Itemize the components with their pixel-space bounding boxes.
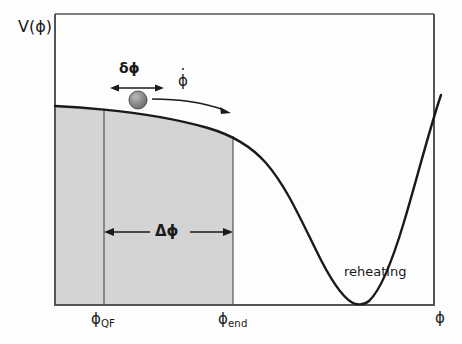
inflaton-ball	[129, 91, 147, 109]
slow-roll-shaded-region	[55, 106, 233, 305]
y-axis-label: V(ϕ)	[18, 17, 52, 36]
phi-qf-subscript: QF	[101, 318, 115, 329]
potential-diagram	[0, 0, 462, 344]
x-axis-label: ϕ	[435, 309, 445, 327]
phi-qf-base: ϕ	[91, 310, 101, 328]
phi-dot-label: ϕ	[178, 72, 188, 90]
delta-phi-arrow	[110, 85, 164, 92]
phi-end-subscript: end	[228, 318, 248, 329]
reheating-label: reheating	[344, 264, 406, 279]
phi-end-tick-label: ϕend	[218, 310, 248, 329]
delta-phi-label: δϕ	[119, 60, 140, 76]
figure-canvas: V(ϕ) ϕ δϕ ϕ Δϕ reheating ϕQF ϕend	[0, 0, 462, 344]
big-delta-phi-label: Δϕ	[155, 222, 179, 240]
phi-qf-tick-label: ϕQF	[91, 310, 115, 329]
phi-end-base: ϕ	[218, 310, 228, 328]
phi-dot-glyph: ϕ	[178, 72, 188, 90]
phi-dot-direction-arrow	[152, 99, 231, 114]
